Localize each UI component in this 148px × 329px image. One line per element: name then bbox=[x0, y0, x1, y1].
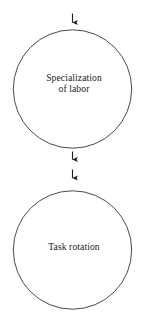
node-specialization-of-labor[interactable] bbox=[13, 30, 131, 148]
diagram-canvas: Specialization of labor Task rotation bbox=[0, 0, 148, 329]
node-task-rotation[interactable] bbox=[13, 191, 131, 309]
node-task-rotation-shape[interactable] bbox=[13, 191, 131, 309]
diagram-graphics bbox=[0, 0, 148, 329]
node-specialization-of-labor-shape[interactable] bbox=[13, 30, 131, 148]
